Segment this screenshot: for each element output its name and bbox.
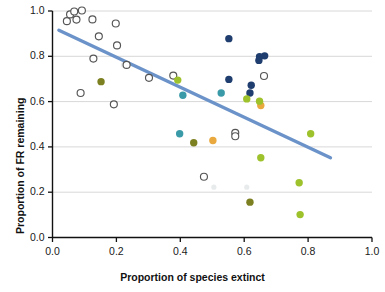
data-point [261,52,268,59]
data-point [217,89,224,96]
data-point [209,137,216,144]
data-point [63,18,70,25]
data-point [295,179,302,186]
trend-line-path [59,30,331,158]
data-point [244,185,249,190]
data-point [176,130,183,137]
x-tick-label: 0.8 [293,245,323,257]
x-tick-label: 0.2 [101,245,131,257]
data-point [112,20,119,27]
data-point [296,211,303,218]
data-point [110,101,117,108]
y-axis-title: Proportion of FR remaining [14,98,26,235]
data-point [246,198,253,205]
data-point [248,82,255,89]
data-point [77,89,84,96]
data-point [114,42,121,49]
y-tick-label: 1.0 [19,4,45,16]
data-point [243,95,250,102]
data-point [174,76,181,83]
data-point [225,35,232,42]
y-tick-label: 0.8 [19,49,45,61]
data-point [261,73,268,80]
data-point [145,74,152,81]
data-point [97,78,104,85]
trend-line [59,30,331,158]
x-tick-label: 0.0 [38,245,68,257]
data-point [190,139,197,146]
data-point [95,33,102,40]
data-point [200,173,207,180]
data-point [232,133,239,140]
data-point [90,55,97,62]
data-point [255,57,262,64]
tick-marks [48,11,372,242]
scatter-chart: 0.00.20.40.60.81.0 0.00.20.40.60.81.0 Pr… [0,0,385,292]
data-point [89,16,96,23]
data-point [256,97,263,104]
axis-lines [52,11,372,238]
data-points-layer [63,7,314,218]
x-tick-label: 0.4 [165,245,195,257]
data-point [307,130,314,137]
data-point [257,154,264,161]
data-point [73,16,80,23]
x-tick-label: 0.6 [229,245,259,257]
data-point [123,61,130,68]
data-point [71,8,78,15]
x-axis-title: Proportion of species extinct [0,271,385,283]
data-point [211,185,216,190]
data-point [179,92,186,99]
x-tick-label: 1.0 [357,245,385,257]
data-point [225,76,232,83]
data-point [78,7,85,14]
